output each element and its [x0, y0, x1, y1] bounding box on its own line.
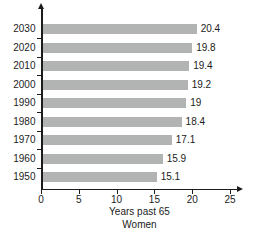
value-label: 15.9 [167, 154, 186, 164]
bar [43, 154, 163, 164]
value-label: 19 [190, 98, 201, 108]
bar-row: 200019.2 [43, 80, 232, 90]
bar-row: 199019 [43, 98, 232, 108]
value-label: 19.8 [196, 43, 215, 53]
bar-row: 202019.8 [43, 43, 232, 53]
bar [43, 117, 182, 127]
bar-row: 201019.4 [43, 61, 232, 71]
y-tick [37, 112, 42, 113]
bar-row: 195015.1 [43, 172, 232, 182]
year-label: 2030 [13, 24, 35, 34]
x-axis-title: Years past 65 [41, 206, 238, 217]
year-label: 2020 [13, 43, 35, 53]
bar [43, 172, 157, 182]
y-tick [37, 57, 42, 58]
bar [43, 61, 190, 71]
year-label: 1960 [13, 154, 35, 164]
bar-row: 198018.4 [43, 117, 232, 127]
y-tick [37, 38, 42, 39]
x-tick-label: 20 [187, 194, 198, 205]
x-axis [41, 189, 238, 191]
bar [43, 43, 193, 53]
x-axis-arrow-icon [237, 186, 243, 192]
bar [43, 98, 187, 108]
y-tick [37, 168, 42, 169]
value-label: 19.2 [192, 80, 211, 90]
value-label: 17.1 [176, 135, 195, 145]
x-tick-label: 25 [224, 194, 235, 205]
year-label: 1990 [13, 98, 35, 108]
value-label: 20.4 [201, 24, 220, 34]
chart-subtitle: Women [41, 219, 238, 230]
bar-row: 196015.9 [43, 154, 232, 164]
x-tick-label: 10 [111, 194, 122, 205]
bar-rows: 203020.4202019.8201019.4200019.219901919… [43, 24, 232, 182]
value-label: 18.4 [186, 117, 205, 127]
value-label: 15.1 [161, 172, 180, 182]
y-tick [37, 131, 42, 132]
y-tick [37, 94, 42, 95]
bar [43, 80, 188, 90]
y-tick [37, 149, 42, 150]
bar-row: 197017.1 [43, 135, 232, 145]
y-tick [37, 75, 42, 76]
value-label: 19.4 [193, 61, 212, 71]
year-label: 1970 [13, 135, 35, 145]
year-label: 2010 [13, 61, 35, 71]
x-tick-label: 15 [149, 194, 160, 205]
year-label: 1980 [13, 117, 35, 127]
bar-row: 203020.4 [43, 24, 232, 34]
x-tick-label: 0 [38, 194, 44, 205]
year-label: 1950 [13, 172, 35, 182]
bar [43, 135, 172, 145]
x-tick-label: 5 [76, 194, 82, 205]
bar-chart: 203020.4202019.8201019.4200019.219901919… [0, 0, 256, 242]
year-label: 2000 [13, 80, 35, 90]
bar [43, 24, 197, 34]
